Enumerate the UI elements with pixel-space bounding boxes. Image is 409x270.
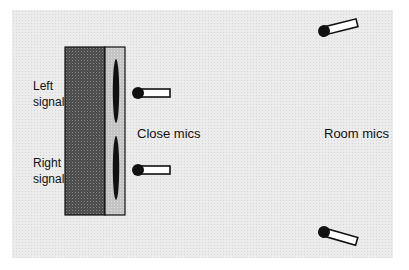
- room-mics-label: Room mics: [324, 126, 389, 142]
- close-mic-lower-icon: [132, 164, 170, 176]
- room-mic-upper-icon: [317, 17, 359, 38]
- left-signal-line2: signal: [33, 94, 64, 110]
- speaker-cabinet: [65, 47, 125, 215]
- left-signal-line1: Left: [33, 78, 64, 94]
- right-signal-line2: signal: [33, 171, 64, 187]
- lower-driver-icon: [113, 136, 119, 200]
- left-signal-label: Left signal: [33, 78, 64, 110]
- close-mics-label: Close mics: [137, 126, 201, 142]
- right-signal-line1: Right: [33, 155, 64, 171]
- right-signal-label: Right signal: [33, 155, 64, 187]
- close-mic-upper-icon: [132, 87, 170, 99]
- upper-driver-icon: [113, 59, 119, 123]
- speaker-body: [65, 47, 105, 215]
- room-mic-lower-icon: [317, 225, 359, 248]
